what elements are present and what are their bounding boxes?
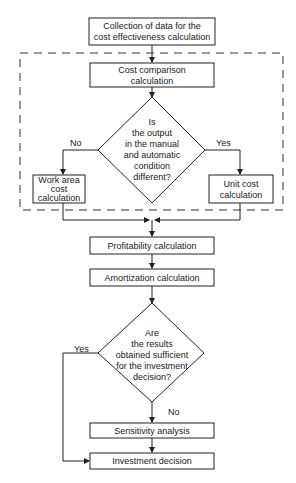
node-profitability-label: Profitability calculation <box>107 241 196 251</box>
decision-results-line-4: for the investment <box>116 361 188 371</box>
node-collect-data: Collection of data for the cost effectiv… <box>89 18 215 45</box>
decision-results-line-1: Are <box>145 328 159 338</box>
label-results-yes: Yes <box>74 344 89 354</box>
node-cost-comparison-line-1: Cost comparison <box>118 65 186 75</box>
node-collect-line-2: cost effectiveness calculation <box>94 32 210 42</box>
decision-output-line-3: in the manual <box>125 139 179 149</box>
node-sensitivity-label: Sensitivity analysis <box>114 426 190 436</box>
label-output-no: No <box>70 138 82 148</box>
node-profitability: Profitability calculation <box>90 237 214 254</box>
decision-output-line-6: different? <box>133 172 170 182</box>
decision-output-line-2: the output <box>132 128 173 138</box>
node-amortization: Amortization calculation <box>90 269 214 286</box>
decision-output-line-5: condition <box>134 161 170 171</box>
node-investment-decision: Investment decision <box>90 453 214 469</box>
label-results-no: No <box>168 407 180 417</box>
node-cost-comparison-line-2: calculation <box>131 76 174 86</box>
decision-results-sufficient: Are the results obtained sufficient for … <box>98 303 204 402</box>
decision-results-line-3: obtained sufficient <box>116 350 189 360</box>
node-collect-line-1: Collection of data for the <box>103 21 201 31</box>
arrow-output-no <box>63 150 98 174</box>
node-cost-comparison: Cost comparison calculation <box>90 63 214 87</box>
arrow-unit-cost-merge <box>155 203 240 220</box>
label-output-yes: Yes <box>216 138 231 148</box>
decision-results-line-5: decision? <box>133 372 171 382</box>
node-work-area-line-3: calculation <box>38 193 81 203</box>
decision-output-different: Is the output in the manual and automati… <box>98 97 205 203</box>
node-investment-label: Investment decision <box>112 456 192 466</box>
node-amortization-label: Amortization calculation <box>104 273 199 283</box>
arrow-work-area-merge <box>63 203 149 220</box>
flowchart: Collection of data for the cost effectiv… <box>0 0 296 483</box>
decision-output-line-1: Is <box>148 117 156 127</box>
arrow-output-yes <box>205 150 240 174</box>
node-unit-cost-line-1: Unit cost <box>223 179 259 189</box>
decision-output-line-4: and automatic <box>124 150 181 160</box>
node-unit-cost: Unit cost calculation <box>209 175 273 203</box>
decision-results-line-2: the results <box>131 339 173 349</box>
node-sensitivity-analysis: Sensitivity analysis <box>90 423 214 438</box>
node-unit-cost-line-2: calculation <box>220 190 263 200</box>
node-work-area-cost: Work area cost calculation <box>33 175 85 203</box>
arrow-results-yes <box>63 353 98 461</box>
